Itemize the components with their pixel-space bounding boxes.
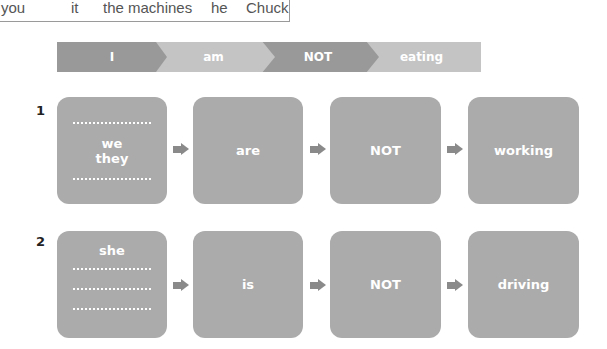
- example-gerund: eating: [362, 42, 481, 72]
- word-bank-item: you: [1, 0, 25, 16]
- blank-line[interactable]: [73, 122, 151, 124]
- word-bank-item: Chuck: [246, 0, 289, 16]
- verb-word: is: [242, 277, 254, 292]
- word-bank: you it the machines he Chuck: [0, 0, 290, 22]
- gerund-word: working: [494, 143, 553, 158]
- blank-line[interactable]: [73, 268, 151, 270]
- subject-box: we they: [57, 97, 167, 204]
- verb-word: are: [236, 143, 260, 158]
- example-negation-label: NOT: [304, 50, 332, 64]
- negation-word: NOT: [370, 277, 401, 292]
- subject-word: she: [99, 243, 125, 258]
- example-verb-label: am: [203, 50, 224, 64]
- subject-box: she: [57, 231, 167, 338]
- exercise-number: 2: [36, 234, 45, 249]
- example-subject-label: I: [110, 50, 114, 64]
- negation-box: NOT: [330, 97, 441, 204]
- example-subject: I: [57, 42, 167, 72]
- example-verb: am: [152, 42, 275, 72]
- example-banner: I am NOT eating: [57, 42, 481, 72]
- gerund-box: driving: [468, 231, 579, 338]
- word-bank-item: he: [211, 0, 228, 16]
- exercise-number: 1: [36, 103, 45, 118]
- blank-line[interactable]: [73, 308, 151, 310]
- gerund-box: working: [468, 97, 579, 204]
- example-negation: NOT: [257, 42, 379, 72]
- gerund-word: driving: [498, 277, 550, 292]
- blank-line[interactable]: [73, 288, 151, 290]
- negation-word: NOT: [370, 143, 401, 158]
- verb-box: is: [193, 231, 303, 338]
- word-bank-item: the machines: [103, 0, 192, 16]
- subject-word: we: [102, 136, 123, 151]
- subject-word: they: [96, 151, 129, 166]
- blank-line[interactable]: [73, 178, 151, 180]
- word-bank-item: it: [71, 0, 79, 16]
- example-gerund-label: eating: [400, 50, 443, 64]
- verb-box: are: [193, 97, 303, 204]
- negation-box: NOT: [330, 231, 441, 338]
